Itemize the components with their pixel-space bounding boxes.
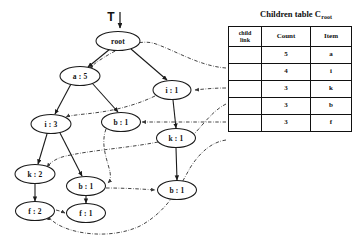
node-label: k : 2: [27, 170, 42, 179]
children-table-head: child link Count Item: [229, 27, 352, 47]
tree-pointer-label: T: [107, 10, 115, 24]
table-header-row: child link Count Item: [229, 27, 352, 47]
node-label: k : 1: [168, 134, 183, 143]
cell-item: f: [311, 115, 352, 132]
table-row[interactable]: 4 i: [229, 64, 352, 81]
tree-edge-k1-b1r: [176, 148, 177, 180]
cell-child-link[interactable]: [229, 81, 262, 98]
tree-node[interactable]: b : 1: [67, 177, 106, 196]
tree-edge-root-a5: [88, 49, 110, 67]
tree-edge-i3-k2: [38, 134, 47, 164]
tree-nodes: root a : 5 i : 1 i : 3 b : 1 k : 1: [15, 32, 197, 223]
cell-child-link[interactable]: [229, 98, 262, 115]
children-table-body: 5 a 4 i 3 k 3 b: [229, 47, 352, 132]
node-label: i : 1: [165, 86, 178, 95]
figure-canvas: T root a : 5 i : 1 i : 3 b :: [0, 0, 354, 248]
column-header-item: Item: [311, 27, 352, 47]
tree-node[interactable]: k : 1: [157, 129, 196, 148]
tree-root-pointer: T: [107, 10, 120, 28]
column-header-child-link: child link: [229, 27, 262, 47]
column-header-child-link-line2: link: [229, 37, 261, 44]
children-table-panel: child link Count Item 5 a 4 i: [228, 26, 348, 132]
node-label: b : 1: [169, 186, 184, 195]
table-row[interactable]: 3 b: [229, 98, 352, 115]
cell-item: a: [311, 47, 352, 64]
node-link-i-table: [195, 88, 226, 90]
cell-child-link[interactable]: [229, 64, 262, 81]
tree-node[interactable]: a : 5: [60, 67, 100, 86]
node-label: a : 5: [73, 72, 88, 81]
cell-child-link[interactable]: [229, 47, 262, 64]
node-label: root: [111, 37, 125, 46]
node-link-b-chain2: [106, 188, 155, 190]
column-header-child-link-line1: child: [229, 30, 261, 37]
cell-child-link[interactable]: [229, 115, 262, 132]
tree-node[interactable]: f : 1: [67, 204, 106, 223]
node-label: b : 1: [78, 182, 93, 191]
cell-count: 3: [262, 115, 311, 132]
cell-count: 3: [262, 81, 311, 98]
tree-node[interactable]: k : 2: [15, 165, 55, 184]
children-table-title-subscript: root: [321, 14, 332, 20]
table-row[interactable]: 5 a: [229, 47, 352, 64]
cell-item: i: [311, 64, 352, 81]
column-header-count: Count: [262, 27, 311, 47]
node-link-b-chain1: [104, 129, 111, 183]
table-row[interactable]: 3 k: [229, 81, 352, 98]
cell-count: 3: [262, 98, 311, 115]
node-link-f-chain: [56, 210, 65, 213]
cell-item: k: [311, 81, 352, 98]
cell-count: 4: [262, 64, 311, 81]
node-link-k-table: [189, 104, 226, 138]
node-label: f : 1: [79, 209, 93, 218]
tree-edge-i1-k1: [173, 100, 176, 128]
tree-node[interactable]: b : 1: [158, 181, 197, 200]
tree-edge-a5-b1m: [92, 83, 118, 112]
node-label: i : 3: [44, 120, 57, 129]
tree-edge-a5-i3: [55, 84, 71, 114]
children-table-title-main: Children table C: [260, 9, 321, 19]
node-label: f : 2: [28, 207, 42, 216]
node-link-k-chain: [47, 142, 158, 167]
cell-item: b: [311, 98, 352, 115]
tree-node[interactable]: b : 1: [102, 113, 141, 132]
table-row[interactable]: 3 f: [229, 115, 352, 132]
tree-node[interactable]: i : 3: [31, 115, 71, 134]
tree-node[interactable]: root: [96, 32, 140, 51]
tree-node[interactable]: f : 2: [16, 202, 55, 221]
children-table: child link Count Item 5 a 4 i: [228, 26, 352, 132]
tree-edge-root-i1: [131, 49, 167, 80]
cell-count: 5: [262, 47, 311, 64]
node-label: b : 1: [113, 118, 128, 127]
tree-edge-i3-b1l: [60, 133, 82, 176]
tree-node[interactable]: i : 1: [153, 81, 191, 100]
children-table-title: Children table Croot: [238, 9, 354, 19]
